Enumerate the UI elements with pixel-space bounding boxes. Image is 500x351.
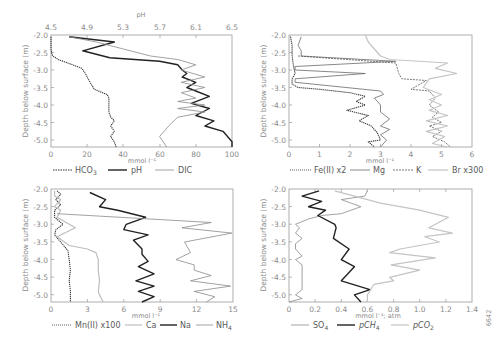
y-tick: -4.0 (33, 101, 48, 110)
x-tick: 2 (348, 150, 353, 159)
x-tick: 0.2 (309, 305, 321, 314)
y-axis-label: Depth below surface (m) (21, 44, 30, 137)
series-hco- (51, 37, 116, 147)
legend-label-ph: pH (131, 166, 142, 175)
panel-bottom-right: -2.0 -2.5 -3.0 -3.5 -4.0 -4.5 -5.0 Depth… (259, 185, 493, 331)
x-tick: 0 (287, 305, 292, 314)
y-tick: -5.0 (271, 291, 286, 300)
x-tick: 0 (287, 150, 292, 159)
x-tick: 15 (228, 305, 238, 314)
top-axis-label-ph: pH (136, 11, 145, 19)
x-tick: 60 (155, 150, 165, 159)
y-axis-ticks: -2.0 -2.5 -3.0 -3.5 -4.0 -4.5 -5.0 (271, 185, 286, 300)
hydrochemistry-depth-profile-figure: pH 4.5 4.9 5.3 5.7 6.1 6.5 -2.0 -2.5 -3.… (0, 0, 500, 351)
top-tick: 6.5 (226, 23, 238, 32)
y-tick: -2.0 (33, 185, 48, 194)
legend-label-mn: Mn(II) x100 (75, 321, 120, 330)
y-axis-label: Depth below surface (m) (259, 198, 268, 291)
series-ph (69, 37, 232, 147)
x-tick: 0 (49, 305, 54, 314)
y-tick: -2.5 (271, 49, 286, 58)
y-tick: -3.5 (33, 238, 48, 247)
x-tick: 3 (85, 305, 90, 314)
series-lines (51, 37, 232, 147)
y-tick: -4.0 (33, 256, 48, 265)
y-tick: -2.0 (271, 31, 286, 40)
legend-label-pch4: pCH4 (358, 321, 380, 331)
y-tick: -3.5 (271, 84, 286, 93)
x-axis-unit: mmol l⁻¹; atm (355, 312, 400, 320)
panel-top-right: -2.0 -2.5 -3.0 -3.5 -4.0 -4.5 -5.0 Depth… (259, 31, 483, 175)
x-tick: 40 (118, 150, 128, 159)
x-axis-unit: mmol l⁻¹ (366, 157, 395, 165)
y-tick: -5.0 (33, 291, 48, 300)
x-tick: 12 (192, 305, 202, 314)
tick-marks (51, 207, 197, 302)
plot-frame (51, 35, 232, 147)
top-tick: 5.3 (117, 23, 129, 32)
x-tick: 6 (121, 305, 126, 314)
legend-label-k: K (416, 166, 422, 175)
y-axis-ticks: -2.0 -2.5 -3.0 -3.5 -4.0 -4.5 -5.0 (271, 31, 286, 145)
series-k (298, 56, 451, 147)
series-lines (289, 191, 452, 302)
legend-label-hco3: HCO3 (75, 166, 97, 176)
legend-label-na: Na (180, 321, 191, 330)
series-pco- (335, 191, 453, 302)
legend: Mn(II) x100 Ca Na NH4 (52, 321, 232, 331)
plot-frame (51, 189, 233, 302)
y-tick: -3.5 (33, 84, 48, 93)
y-tick: -4.5 (271, 119, 286, 128)
x-tick: 1 (317, 150, 322, 159)
legend-label-fe: Fe(II) x2 (314, 166, 346, 175)
tick-marks (51, 35, 196, 147)
x-tick: 1.4 (466, 305, 478, 314)
y-tick: -2.0 (271, 185, 286, 194)
panel-top-left: pH 4.5 4.9 5.3 5.7 6.1 6.5 -2.0 -2.5 -3.… (21, 11, 239, 176)
x-tick: 0.4 (335, 305, 347, 314)
y-tick: -3.0 (33, 220, 48, 229)
x-axis-unit: mmol l⁻¹ (132, 312, 161, 320)
x-tick: 100 (225, 150, 240, 159)
legend-label-dic: DIC (178, 166, 193, 175)
legend: SO4 pCH4 pCO2 (291, 321, 434, 331)
y-tick: -4.0 (271, 256, 286, 265)
series-lines (291, 35, 457, 147)
y-tick: -4.0 (271, 101, 286, 110)
y-tick: -4.5 (33, 119, 48, 128)
x-tick: 5 (439, 150, 444, 159)
y-axis-ticks: -2.0 -2.5 -3.0 -3.5 -4.0 -4.5 -5.0 (33, 185, 48, 300)
x-axis-unit: mmol l⁻¹ (128, 157, 157, 165)
top-tick: 5.7 (154, 23, 166, 32)
legend-label-ca: Ca (146, 321, 157, 330)
y-axis-label: Depth below surface (m) (21, 198, 30, 291)
legend-label-pco2: pCO2 (412, 321, 434, 331)
legend-label-nh4: NH4 (216, 321, 232, 331)
y-axis-ticks: -2.0 -2.5 -3.0 -3.5 -4.0 -4.5 -5.0 (33, 31, 48, 145)
legend: HCO3 pH DIC (53, 166, 193, 176)
panel-bottom-left: -2.0 -2.5 -3.0 -3.5 -4.0 -4.5 -5.0 Depth… (21, 185, 238, 331)
series-fe-ii-x2 (291, 37, 381, 147)
top-axis-ticks: 4.5 4.9 5.3 5.7 6.1 6.5 (45, 23, 238, 32)
plot-frame (289, 189, 472, 302)
legend-label-so4: SO4 (313, 321, 328, 331)
legend: Fe(II) x2 Mg K Br x300 (290, 166, 483, 175)
x-tick: 1.2 (440, 305, 452, 314)
y-tick: -3.0 (271, 66, 286, 75)
x-tick: 0 (49, 150, 54, 159)
y-tick: -4.5 (271, 273, 286, 282)
y-tick: -3.0 (33, 66, 48, 75)
y-tick: -5.0 (33, 136, 48, 145)
y-tick: -5.0 (271, 136, 286, 145)
y-tick: -3.0 (271, 220, 286, 229)
x-tick: 4 (409, 150, 414, 159)
x-tick: 6 (470, 150, 475, 159)
top-tick: 6.1 (190, 23, 202, 32)
y-tick: -4.5 (33, 273, 48, 282)
figure-id: 6642 (485, 310, 493, 327)
x-tick: 80 (191, 150, 201, 159)
y-tick: -2.5 (271, 203, 286, 212)
top-tick: 4.9 (81, 23, 93, 32)
legend-label-mg: Mg (373, 166, 385, 175)
y-tick: -3.5 (271, 238, 286, 247)
